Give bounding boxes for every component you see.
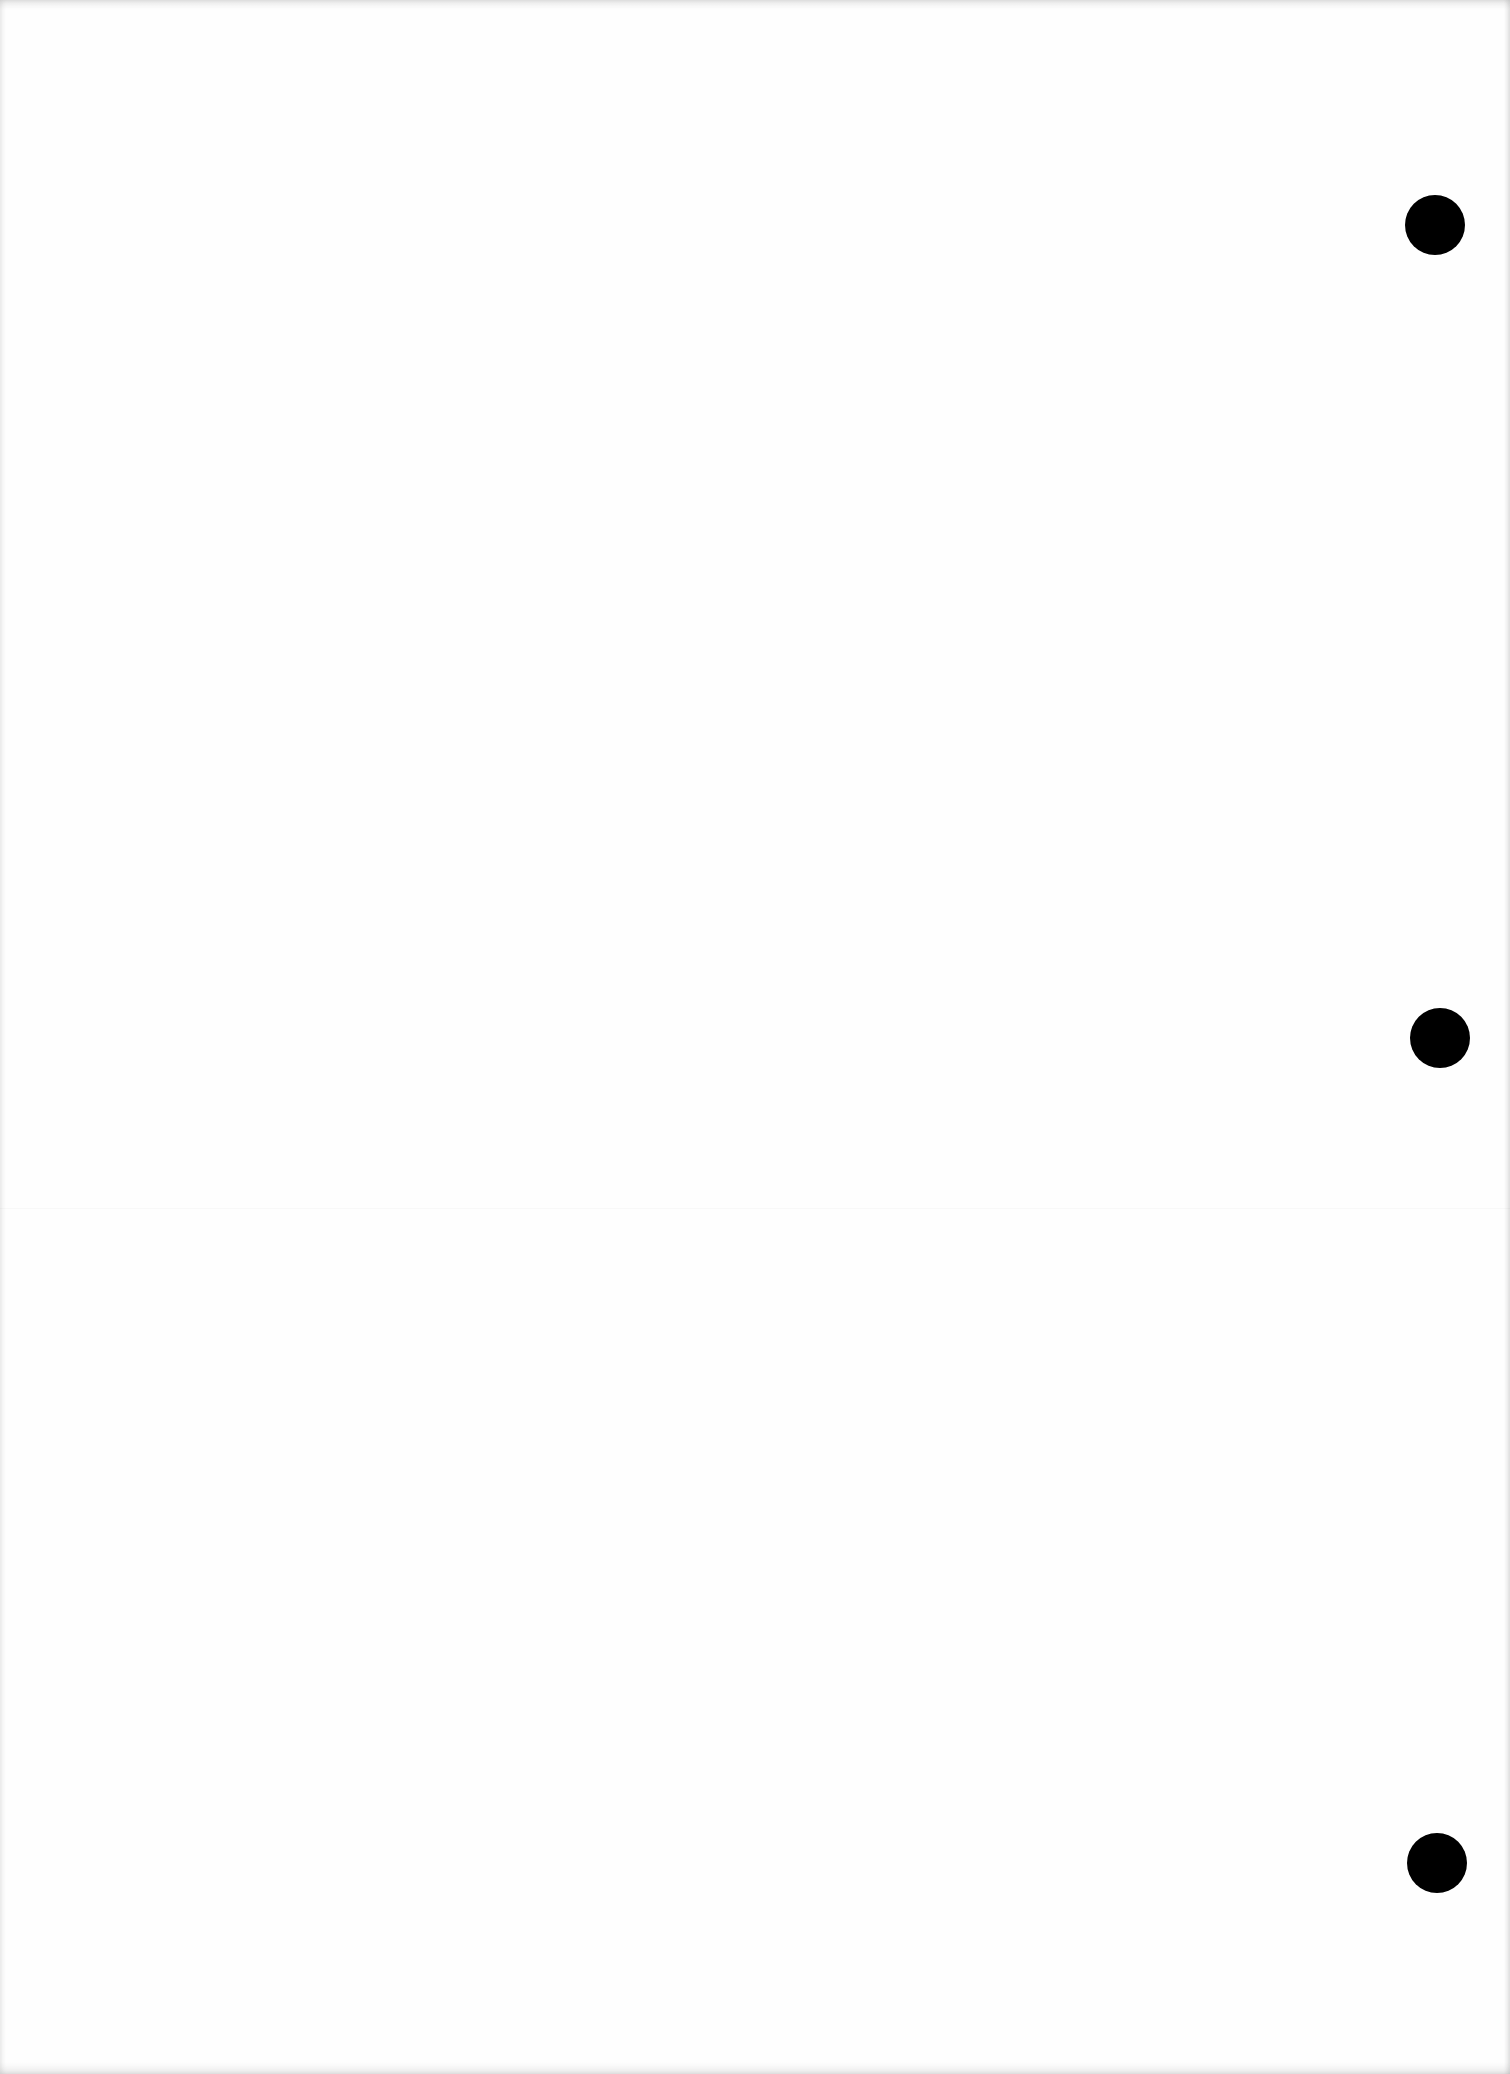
scan-edge-top (0, 0, 1510, 10)
punch-hole-middle (1410, 1008, 1470, 1068)
scan-edge-right (1504, 0, 1510, 2074)
punch-hole-bottom (1407, 1833, 1467, 1893)
fold-line (0, 1208, 1510, 1209)
blank-page (0, 0, 1510, 2074)
punch-hole-top (1405, 195, 1465, 255)
scan-edge-bottom (0, 2062, 1510, 2074)
